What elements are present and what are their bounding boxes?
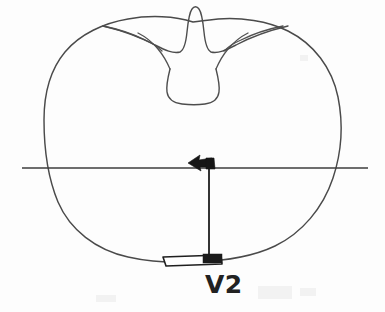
body-outline	[44, 17, 341, 263]
figure-root: V2	[0, 0, 385, 312]
diagram-svg	[0, 0, 385, 312]
spinous-process-and-canal	[103, 7, 288, 53]
transducer-label: V2	[205, 272, 243, 297]
left-transverse-process	[103, 26, 162, 51]
vertebral-canal-outline	[167, 69, 220, 105]
ultrasound-transducer	[163, 254, 222, 266]
arrow-tail-nub	[206, 158, 215, 169]
transducer-contact-point	[203, 254, 222, 263]
